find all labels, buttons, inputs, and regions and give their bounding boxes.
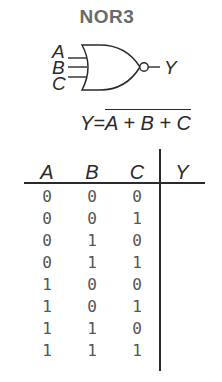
cell-c: 1	[122, 255, 152, 271]
cell-a: 1	[32, 277, 62, 293]
cell-b: 0	[77, 277, 107, 293]
cell-c: 0	[122, 233, 152, 249]
table-header-a: A	[32, 162, 62, 182]
table-header-y: Y	[167, 162, 197, 182]
equation-equals: =	[93, 112, 105, 134]
cell-c: 1	[122, 211, 152, 227]
output-label-y: Y	[164, 58, 177, 77]
cell-c: 0	[122, 321, 152, 337]
cell-a: 1	[32, 321, 62, 337]
cell-b: 1	[77, 343, 107, 359]
cell-a: 0	[32, 255, 62, 271]
equation-rhs-overlined: A + B + C	[105, 109, 191, 134]
cell-c: 0	[122, 277, 152, 293]
cell-b: 1	[77, 321, 107, 337]
cell-b: 0	[77, 299, 107, 315]
cell-a: 1	[32, 343, 62, 359]
cell-b: 0	[77, 211, 107, 227]
cell-a: 0	[32, 189, 62, 205]
table-header-c: C	[122, 162, 152, 182]
input-label-c: C	[52, 74, 66, 93]
cell-a: 0	[32, 211, 62, 227]
inversion-bubble-icon	[140, 63, 148, 71]
cell-b: 1	[77, 255, 107, 271]
equation-lhs: Y	[80, 112, 93, 134]
table-header-b: B	[77, 162, 107, 182]
table-header-rule	[24, 182, 205, 184]
cell-c: 0	[122, 189, 152, 205]
cell-c: 1	[122, 299, 152, 315]
boolean-equation: Y=A + B + C	[80, 113, 191, 133]
cell-b: 0	[77, 189, 107, 205]
cell-b: 1	[77, 233, 107, 249]
nor-gate-symbol-icon	[0, 0, 222, 110]
cell-a: 0	[32, 233, 62, 249]
table-output-divider	[159, 149, 161, 371]
or-body	[82, 45, 140, 90]
cell-c: 1	[122, 343, 152, 359]
cell-a: 1	[32, 299, 62, 315]
